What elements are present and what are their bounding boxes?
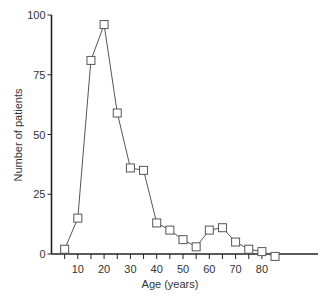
data-point-marker [153, 219, 161, 227]
y-tick-label: 25 [33, 188, 45, 200]
data-point-marker [271, 252, 279, 260]
data-point-marker [113, 109, 121, 117]
data-point-marker [87, 56, 95, 64]
y-tick-label: 0 [39, 248, 45, 260]
data-point-marker [61, 245, 69, 253]
data-point-marker [192, 243, 200, 251]
x-tick-label: 50 [177, 263, 189, 275]
data-point-marker [179, 236, 187, 244]
data-point-marker [100, 21, 108, 29]
data-point-marker [126, 164, 134, 172]
data-point-marker [232, 238, 240, 246]
data-point-marker [245, 245, 253, 253]
x-tick-label: 70 [229, 263, 241, 275]
x-tick-label: 30 [124, 263, 136, 275]
data-series [61, 21, 279, 261]
series-line [65, 25, 275, 257]
data-point-marker [205, 226, 213, 234]
x-tick-label: 10 [72, 263, 84, 275]
data-point-marker [166, 226, 174, 234]
y-axis-title: Number of patients [12, 88, 24, 181]
x-tick-label: 20 [98, 263, 110, 275]
y-tick-label: 100 [27, 9, 45, 21]
data-point-marker [140, 166, 148, 174]
x-tick-label: 80 [256, 263, 268, 275]
data-point-marker [258, 248, 266, 256]
y-tick-label: 50 [33, 129, 45, 141]
x-tick-label: 60 [203, 263, 215, 275]
data-point-marker [74, 214, 82, 222]
y-axis: 0255075100 [27, 9, 51, 260]
line-chart: 0255075100 1020304050607080 Number of pa… [0, 0, 329, 306]
x-axis-title: Age (years) [142, 278, 199, 290]
y-tick-label: 75 [33, 69, 45, 81]
data-point-marker [218, 224, 226, 232]
x-tick-label: 40 [151, 263, 163, 275]
